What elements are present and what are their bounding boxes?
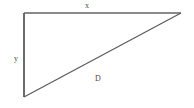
triangle-shape	[0, 0, 194, 108]
triangle-figure: x y D	[0, 0, 194, 108]
side-label-y: y	[14, 55, 18, 63]
side-label-x: x	[85, 2, 89, 10]
hypotenuse-line	[24, 13, 181, 97]
hypotenuse-label-d: D	[95, 75, 101, 83]
